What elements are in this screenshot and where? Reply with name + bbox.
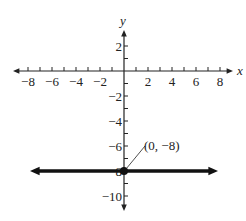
axes	[13, 30, 233, 211]
annotation-leader-line	[126, 146, 145, 169]
y-tick-label: −2	[108, 89, 122, 104]
x-tick-label: −8	[21, 74, 35, 89]
tick-labels: xy−8−6−4−224682−2−4−68−10	[21, 13, 243, 204]
line-arrow-left-icon	[30, 167, 40, 175]
y-tick-label: 2	[116, 39, 123, 54]
x-tick-label: 6	[193, 74, 200, 89]
y-axis-label: y	[118, 13, 126, 28]
x-axis-arrow-left-icon	[13, 68, 19, 74]
line-arrow-right-icon	[208, 167, 218, 175]
y-axis-arrow-down-icon	[121, 205, 127, 211]
x-tick-label: 2	[145, 74, 152, 89]
y-tick-label: −10	[102, 189, 122, 204]
x-tick-label: 4	[169, 74, 176, 89]
data-series	[30, 167, 218, 175]
x-tick-label: −4	[69, 74, 83, 89]
point-label: (0, −8)	[144, 138, 180, 153]
x-axis-label: x	[236, 63, 243, 78]
x-tick-label: −6	[45, 74, 59, 89]
y-tick-label: −6	[108, 139, 122, 154]
x-axis-arrow-right-icon	[227, 68, 233, 74]
coordinate-plane: xy−8−6−4−224682−2−4−68−10 (0, −8)	[0, 0, 246, 221]
y-tick-label: −4	[108, 114, 122, 129]
x-tick-label: −2	[93, 74, 107, 89]
y-axis-arrow-up-icon	[121, 30, 127, 36]
x-tick-label: 8	[217, 74, 224, 89]
annotations: (0, −8)	[126, 138, 180, 169]
